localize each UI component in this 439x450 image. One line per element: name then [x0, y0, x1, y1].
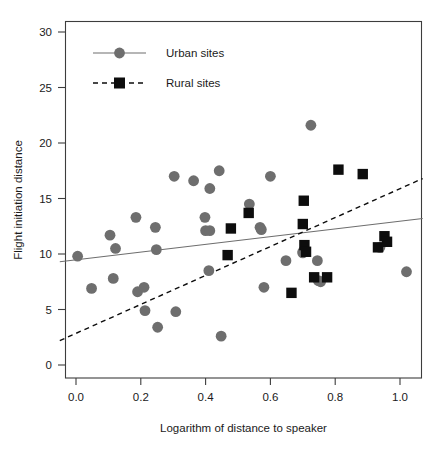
- x-tick-label: 0.4: [198, 391, 215, 403]
- data-point-urban: [139, 282, 150, 293]
- legend-urban-marker-icon: [114, 48, 125, 59]
- data-point-urban: [169, 171, 180, 182]
- y-tick-label: 0: [46, 359, 52, 371]
- data-point-rural: [382, 237, 392, 247]
- data-point-urban: [152, 322, 163, 333]
- data-point-rural: [322, 272, 332, 282]
- y-tick-label: 30: [39, 26, 52, 38]
- trend-lines-group: [60, 179, 423, 341]
- y-tick-label: 10: [39, 248, 52, 260]
- data-point-urban: [110, 243, 121, 254]
- data-point-urban: [200, 212, 211, 223]
- y-tick-label: 25: [39, 82, 52, 94]
- data-point-urban: [86, 283, 97, 294]
- data-point-rural: [298, 219, 308, 229]
- data-point-rural: [222, 250, 232, 260]
- data-point-urban: [204, 225, 215, 236]
- legend-label-rural: Rural sites: [166, 77, 221, 89]
- plot-canvas: 0.00.20.40.60.81.0 051015202530 Logarith…: [0, 0, 439, 450]
- data-point-urban: [150, 222, 161, 233]
- data-point-urban: [170, 306, 181, 317]
- data-point-rural: [333, 164, 343, 174]
- data-point-rural: [286, 288, 296, 298]
- data-point-urban: [188, 175, 199, 186]
- legend-entry-rural-sites: Rural sites: [93, 77, 221, 89]
- plot-frame: [66, 22, 422, 379]
- legend-label-urban: Urban sites: [166, 47, 224, 59]
- data-point-rural: [226, 223, 236, 233]
- y-tick-label: 5: [46, 304, 52, 316]
- y-axis-title: Flight initiation distance: [12, 140, 24, 260]
- x-tick-label: 0.2: [133, 391, 149, 403]
- data-point-urban: [259, 282, 270, 293]
- data-point-urban: [214, 165, 225, 176]
- data-point-urban: [72, 251, 83, 262]
- x-axis-ticks: 0.00.20.40.60.81.0: [68, 378, 408, 403]
- data-point-urban: [131, 212, 142, 223]
- data-point-urban: [151, 244, 162, 255]
- data-point-rural: [301, 247, 311, 257]
- data-point-urban: [203, 265, 214, 276]
- y-axis-ticks: 051015202530: [39, 26, 65, 371]
- data-point-urban: [105, 230, 116, 241]
- data-point-urban: [281, 255, 292, 266]
- x-tick-label: 0.6: [262, 391, 278, 403]
- trend-line: [60, 218, 423, 261]
- data-point-urban: [265, 171, 276, 182]
- data-points-group: [72, 120, 412, 342]
- data-point-urban: [216, 331, 227, 342]
- y-tick-label: 20: [39, 137, 52, 149]
- chart-legend: Urban sites Rural sites: [93, 47, 224, 89]
- x-tick-label: 1.0: [392, 391, 408, 403]
- trend-line: [60, 179, 423, 341]
- data-point-rural: [299, 196, 309, 206]
- legend-entry-urban-sites: Urban sites: [93, 47, 224, 59]
- data-point-urban: [140, 305, 151, 316]
- data-point-urban: [401, 266, 412, 277]
- data-point-urban: [204, 183, 215, 194]
- data-point-urban: [108, 273, 119, 284]
- data-point-urban: [306, 120, 317, 131]
- scatter-plot-figure: 0.00.20.40.60.81.0 051015202530 Logarith…: [0, 0, 439, 450]
- x-tick-label: 0.8: [327, 391, 343, 403]
- data-point-rural: [243, 208, 253, 218]
- data-point-urban: [312, 255, 323, 266]
- data-point-urban: [256, 224, 267, 235]
- x-axis-title: Logarithm of distance to speaker: [160, 422, 327, 434]
- data-point-rural: [309, 272, 319, 282]
- data-point-rural: [373, 242, 383, 252]
- data-point-rural: [358, 169, 368, 179]
- legend-rural-marker-icon: [114, 78, 125, 89]
- x-tick-label: 0.0: [68, 391, 84, 403]
- y-tick-label: 15: [39, 193, 52, 205]
